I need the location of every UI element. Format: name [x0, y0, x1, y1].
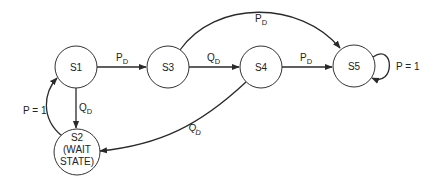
label-s4-s5: PD [300, 52, 313, 66]
state-s2-line3: STATE) [60, 156, 94, 167]
state-s1: S1 [55, 46, 97, 88]
state-s2: S2 (WAIT STATE) [54, 129, 100, 175]
label-s1-s3: PD [116, 52, 129, 66]
svg-text:QD: QD [79, 102, 93, 116]
label-s3-s5: PD [255, 13, 268, 27]
state-s5: S5 [333, 45, 375, 87]
state-s3-label: S3 [162, 62, 175, 73]
label-s4-s2: QD [187, 121, 203, 138]
svg-text:P = 1: P = 1 [396, 61, 420, 72]
state-s3: S3 [147, 46, 189, 88]
svg-text:P = 1: P = 1 [23, 105, 47, 116]
label-s1-s2: QD [79, 102, 93, 116]
edge-s2-s1-arc [46, 78, 62, 136]
state-s5-label: S5 [348, 61, 361, 72]
label-s2-s1: P = 1 [23, 105, 47, 116]
svg-text:QD: QD [187, 121, 203, 138]
label-s5-self: P = 1 [396, 61, 420, 72]
state-diagram: S1 S2 (WAIT STATE) S3 S4 S5 PD QD PD PD … [0, 0, 435, 182]
edge-s4-s2-arc [100, 82, 246, 151]
state-s4-label: S4 [255, 62, 268, 73]
label-s3-s4: QD [207, 52, 221, 66]
state-s4: S4 [240, 46, 282, 88]
state-s2-label: S2 [71, 132, 84, 143]
state-s2-line2: (WAIT [63, 144, 91, 155]
svg-text:PD: PD [300, 52, 313, 66]
svg-text:PD: PD [116, 52, 129, 66]
svg-text:QD: QD [207, 52, 221, 66]
svg-text:PD: PD [255, 13, 268, 27]
state-s1-label: S1 [70, 62, 83, 73]
